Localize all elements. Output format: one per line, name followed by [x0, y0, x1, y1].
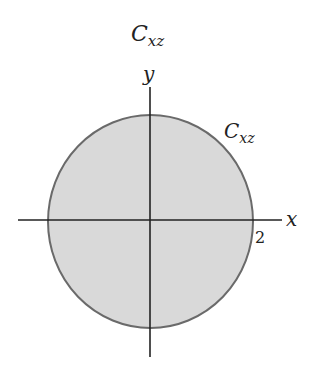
title-main: C — [131, 21, 148, 46]
curve-label: Cxz — [224, 119, 255, 146]
x-axis-label: x — [286, 207, 297, 231]
figure-title: Cxz — [131, 21, 164, 50]
x-tick-label-2: 2 — [255, 228, 265, 247]
curve-label-subscript: xz — [239, 130, 255, 146]
diagram-canvas: Cxz x y 2 Cxz — [0, 0, 316, 375]
title-subscript: xz — [148, 32, 164, 50]
curve-label-main: C — [224, 119, 239, 143]
y-axis-label: y — [142, 62, 155, 86]
